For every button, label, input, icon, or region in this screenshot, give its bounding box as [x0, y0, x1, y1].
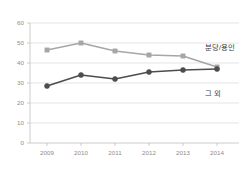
series-label-other: 그 외	[205, 89, 221, 98]
chart-plot-area: 60 50 40 30 20 10 0 2009 2010 2011 2012 …	[0, 0, 251, 173]
series-other	[45, 67, 220, 89]
gridlines	[30, 23, 239, 123]
label-leader-line	[203, 52, 220, 64]
data-point-marker	[147, 53, 151, 57]
y-tick-label-50: 50	[17, 39, 24, 46]
y-axis	[27, 23, 30, 143]
series-bundang-yongin	[45, 41, 219, 69]
y-tick-label-60: 60	[17, 19, 24, 26]
series-label-bundang-yongin: 분당/용인	[205, 43, 235, 52]
data-point-marker	[215, 67, 220, 72]
x-tick-label-2012: 2012	[142, 149, 156, 156]
y-tick-labels: 60 50 40 30 20 10 0	[17, 19, 24, 146]
data-point-marker	[45, 84, 50, 89]
y-tick-label-10: 10	[17, 119, 24, 126]
data-point-marker	[113, 77, 118, 82]
line-chart: 60 50 40 30 20 10 0 2009 2010 2011 2012 …	[0, 0, 251, 173]
series-line	[47, 43, 217, 67]
y-tick-label-30: 30	[17, 79, 24, 86]
y-tick-label-0: 0	[21, 139, 25, 146]
data-point-marker	[181, 68, 186, 73]
x-tick-labels: 2009 2010 2011 2012 2013 2014	[40, 149, 224, 156]
x-axis	[30, 143, 239, 146]
data-series-layer	[45, 41, 221, 89]
data-point-marker	[181, 54, 185, 58]
series-line	[47, 69, 217, 86]
x-tick-label-2013: 2013	[176, 149, 190, 156]
y-tick-label-20: 20	[17, 99, 24, 106]
data-point-marker	[147, 70, 152, 75]
y-tick-label-40: 40	[17, 59, 24, 66]
data-point-marker	[79, 73, 84, 78]
x-tick-label-2010: 2010	[74, 149, 88, 156]
x-tick-label-2014: 2014	[210, 149, 224, 156]
x-tick-label-2011: 2011	[108, 149, 122, 156]
data-point-marker	[113, 49, 117, 53]
data-point-marker	[79, 41, 83, 45]
data-point-marker	[45, 48, 49, 52]
x-tick-label-2009: 2009	[40, 149, 54, 156]
